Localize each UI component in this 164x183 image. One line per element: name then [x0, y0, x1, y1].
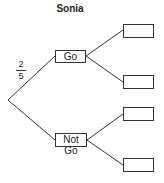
- probability-numerator: 2: [18, 59, 23, 69]
- answer-box-not-go-1[interactable]: [123, 107, 154, 121]
- branch-probability: 2 5: [15, 60, 27, 81]
- answer-box-go-1[interactable]: [123, 24, 154, 38]
- answer-box-go-2[interactable]: [123, 75, 154, 89]
- node-not-go: Not Go: [55, 133, 87, 147]
- answer-box-not-go-2[interactable]: [123, 158, 154, 172]
- probability-denominator: 5: [18, 71, 23, 81]
- node-go: Go: [55, 50, 86, 63]
